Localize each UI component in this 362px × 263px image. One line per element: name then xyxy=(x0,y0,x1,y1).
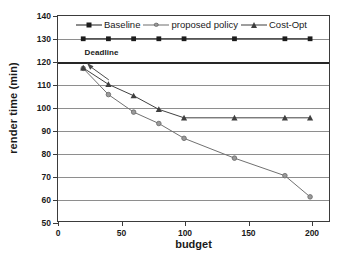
x-tick-label: 0 xyxy=(56,228,61,238)
annotation-arrowhead xyxy=(87,63,93,70)
y-tick-label: 120 xyxy=(37,57,51,67)
legend-label-proposed-policy: proposed policy xyxy=(171,19,238,30)
y-tick-label: 110 xyxy=(37,80,51,90)
deadline-arrow-icon xyxy=(58,16,329,221)
x-tick-mark xyxy=(185,221,186,226)
plot-area: 5060708090100110120130140 050100150200 D… xyxy=(57,15,330,222)
x-axis-title: budget xyxy=(57,238,330,250)
annotation-leader-line xyxy=(91,67,109,80)
x-tick-mark xyxy=(58,221,59,226)
x-tick-label: 200 xyxy=(305,228,319,238)
y-axis-title-text: render time (min) xyxy=(7,62,19,154)
legend-marker-triangle-icon xyxy=(241,20,267,30)
y-tick-label: 70 xyxy=(42,172,51,182)
y-axis-title: render time (min) xyxy=(2,0,24,215)
legend-entry-baseline: Baseline xyxy=(76,19,143,30)
y-tick-label: 50 xyxy=(42,218,51,228)
y-tick-label: 60 xyxy=(42,195,51,205)
y-tick-label: 90 xyxy=(42,126,51,136)
x-tick-label: 150 xyxy=(241,228,255,238)
x-tick-label: 50 xyxy=(117,228,126,238)
x-tick-mark xyxy=(249,221,250,226)
legend-marker-circle-icon xyxy=(143,20,169,30)
x-tick-mark xyxy=(122,221,123,226)
y-tick-label: 130 xyxy=(37,34,51,44)
chart-figure: render time (min) 5060708090100110120130… xyxy=(0,0,362,263)
y-tick-label: 80 xyxy=(42,149,51,159)
legend-label-cost-opt: Cost-Opt xyxy=(269,19,307,30)
chart-legend: Baseline proposed policy Cost-Opt xyxy=(76,19,310,30)
x-tick-mark xyxy=(312,221,313,226)
legend-marker-square-icon xyxy=(76,20,102,30)
legend-entry-proposed-policy: proposed policy xyxy=(143,19,241,30)
legend-label-baseline: Baseline xyxy=(104,19,140,30)
legend-entry-cost-opt: Cost-Opt xyxy=(241,19,310,30)
y-tick-label: 100 xyxy=(37,103,51,113)
x-tick-label: 100 xyxy=(178,228,192,238)
y-tick-label: 140 xyxy=(37,11,51,21)
